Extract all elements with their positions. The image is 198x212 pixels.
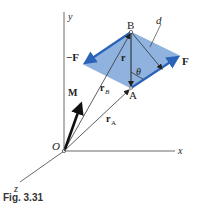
z-axis <box>20 151 64 182</box>
point-B-label: B <box>127 19 134 31</box>
point-A-label: A <box>129 89 137 101</box>
rA-vector <box>64 90 129 151</box>
distance-d-leader <box>150 24 161 47</box>
rA-label: r A <box>106 113 116 127</box>
force-pos-label: F <box>182 55 189 67</box>
rA-label-sub: A <box>111 119 116 127</box>
x-axis-label: x <box>177 145 183 156</box>
force-neg-label: −F <box>66 51 79 63</box>
rB-label-sub: B <box>105 88 110 96</box>
figure-caption: Fig. 3.31 <box>3 192 43 203</box>
moment-label: M <box>68 87 78 98</box>
y-axis-label: y <box>67 11 73 22</box>
distance-d-label: d <box>156 14 162 26</box>
origin-label: O <box>52 140 60 152</box>
r-label: r <box>121 52 126 63</box>
rB-label: r B <box>100 82 110 96</box>
couple-diagram: y x z O B A −F F r d θ M r B r A Fig. 3.… <box>0 0 198 212</box>
theta-label: θ <box>136 66 141 77</box>
